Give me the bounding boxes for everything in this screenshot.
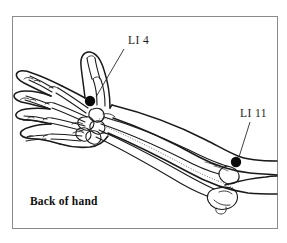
li11-point-marker[interactable] bbox=[231, 157, 241, 167]
figure-container: LI 4 LI 11 Back of hand bbox=[0, 0, 287, 243]
figure-caption: Back of hand bbox=[30, 195, 98, 207]
li4-point-marker[interactable] bbox=[85, 96, 95, 106]
label-li11: LI 11 bbox=[240, 107, 267, 119]
anatomical-illustration: LI 4 LI 11 Back of hand bbox=[0, 0, 287, 243]
label-li4: LI 4 bbox=[128, 34, 149, 46]
